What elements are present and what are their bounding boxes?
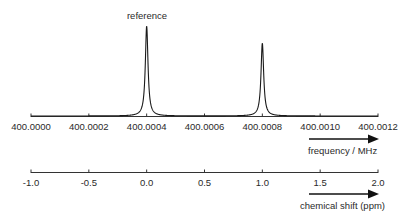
frequency-axis-title: frequency / MHz	[308, 145, 377, 156]
chemical-shift-arrow-icon	[309, 190, 379, 199]
spectrum-plot	[0, 0, 403, 222]
tick-label: 0.5	[198, 177, 211, 188]
tick-label: 1.5	[314, 177, 327, 188]
tick-label: 400.0002	[69, 121, 109, 132]
tick-label: 400.0008	[243, 121, 283, 132]
tick-label: 2.0	[371, 177, 384, 188]
tick-label: 400.0012	[358, 121, 398, 132]
tick-label: -0.5	[81, 177, 97, 188]
tick-label: 0.0	[140, 177, 153, 188]
tick-label: 400.0010	[300, 121, 340, 132]
ppm-axis-title: chemical shift (ppm)	[300, 200, 385, 211]
reference-annotation: reference	[127, 10, 167, 21]
spectrum-line	[31, 26, 378, 116]
tick-label: 400.0004	[127, 121, 167, 132]
tick-label: 400.0006	[185, 121, 225, 132]
tick-label: -1.0	[23, 177, 39, 188]
tick-label: 400.0000	[11, 121, 51, 132]
frequency-arrow-icon	[309, 135, 379, 144]
tick-label: 1.0	[256, 177, 269, 188]
nmr-spectrum-chart: reference 400.0000400.0002400.0004400.00…	[0, 0, 403, 222]
